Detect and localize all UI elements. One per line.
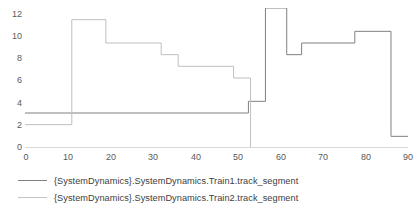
x-tick-label: 90 bbox=[403, 152, 413, 162]
series-line-train2 bbox=[25, 20, 251, 148]
y-tick-label: 8 bbox=[17, 54, 22, 63]
x-tick-label: 10 bbox=[63, 152, 73, 162]
y-tick-label: 0 bbox=[17, 143, 22, 152]
y-tick-label: 2 bbox=[17, 121, 22, 130]
x-tick-label: 70 bbox=[318, 152, 328, 162]
x-tick-label: 60 bbox=[276, 152, 286, 162]
x-tick-label: 80 bbox=[361, 152, 371, 162]
y-tick-label: 4 bbox=[17, 99, 22, 108]
legend-swatch-icon bbox=[18, 180, 47, 181]
y-tick-label: 10 bbox=[12, 32, 22, 41]
x-tick-label: 20 bbox=[106, 152, 116, 162]
x-tick-label: 50 bbox=[233, 152, 243, 162]
x-tick-label: 30 bbox=[148, 152, 158, 162]
series-canvas bbox=[25, 8, 408, 148]
legend-swatch-icon bbox=[18, 197, 47, 198]
legend-item-train2[interactable]: {SystemDynamics}.SystemDynamics.Train2.t… bbox=[0, 189, 416, 206]
y-axis-tick-labels: 12 10 8 6 4 2 0 bbox=[0, 0, 22, 156]
y-tick-label: 12 bbox=[12, 10, 22, 19]
legend-item-label: {SystemDynamics}.SystemDynamics.Train2.t… bbox=[54, 193, 298, 203]
chart-container: 12 10 8 6 4 2 0 0 10 20 30 40 50 60 70 8… bbox=[0, 0, 416, 211]
x-tick-label: 0 bbox=[23, 152, 28, 162]
chart-legend: {SystemDynamics}.SystemDynamics.Train1.t… bbox=[0, 172, 416, 206]
x-tick-label: 40 bbox=[191, 152, 201, 162]
y-tick-label: 6 bbox=[17, 76, 22, 85]
series-line-train1 bbox=[25, 8, 408, 136]
legend-item-train1[interactable]: {SystemDynamics}.SystemDynamics.Train1.t… bbox=[0, 172, 416, 189]
legend-item-label: {SystemDynamics}.SystemDynamics.Train1.t… bbox=[54, 176, 298, 186]
plot-area bbox=[25, 8, 408, 148]
x-axis-tick-labels: 0 10 20 30 40 50 60 70 80 90 bbox=[0, 152, 416, 166]
